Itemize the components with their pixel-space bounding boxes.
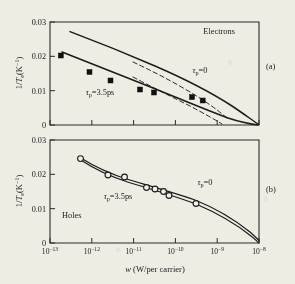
y-axis-title-panel-b: 1/Te(K−1) xyxy=(14,175,25,208)
xtick-label-4: 10−9 xyxy=(210,246,224,256)
panel-b-annotation-tau35: τp=3.5ps xyxy=(104,192,133,202)
panel-a-ytick-2: 0.01 xyxy=(32,87,46,96)
panel-b-xticks xyxy=(50,238,259,243)
xtick-label-3: 10−10 xyxy=(167,246,184,256)
xtick-label-5: 10−8 xyxy=(252,246,266,256)
y-axis-title-panel-a: 1/Te(K−1) xyxy=(14,57,25,90)
panel-b: 0.03 0.02 0.01 0 τp=0 τp=3.5ps Holes (b) xyxy=(32,136,276,248)
xtick-label-1: 10−12 xyxy=(84,246,101,256)
panel-a-dashed-lower xyxy=(133,77,222,124)
panel-b-tag: (b) xyxy=(266,185,276,194)
panel-a-dashed-upper xyxy=(133,62,228,119)
panel-a-ytick-0: 0.03 xyxy=(32,18,46,27)
panel-a-annotation-tau0: τp=0 xyxy=(192,66,207,76)
panel-a-title: Electrons xyxy=(203,27,235,36)
xtick-label-0: 10−13 xyxy=(42,246,59,256)
x-axis-tick-labels: 10−13 10−12 10−11 10−10 10−9 10−8 xyxy=(42,246,266,256)
panel-b-ytick-0: 0.03 xyxy=(32,136,46,145)
panel-a-curve-tau0 xyxy=(70,32,258,124)
panel-a-xticks xyxy=(50,120,259,125)
panel-b-ytick-1: 0.02 xyxy=(32,170,46,179)
panel-b-yticks xyxy=(50,140,55,243)
x-axis-title: w (W/per carrier) xyxy=(125,264,185,274)
panel-a-frame xyxy=(50,22,259,125)
panel-a-annotation-tau35: τp=3.5ps xyxy=(86,88,115,98)
scientific-figure: 0.03 0.02 0.01 0 Electrons τp=0 τp=3.5ps xyxy=(0,0,295,284)
panel-a-yticks xyxy=(50,22,55,125)
panel-b-annotation-tau0: τp=0 xyxy=(197,178,212,188)
panel-a-data-markers xyxy=(58,53,205,103)
panel-a-tag: (a) xyxy=(266,62,276,71)
panel-a-ytick-1: 0.02 xyxy=(32,52,46,61)
panel-b-title: Holes xyxy=(62,211,82,220)
xtick-label-2: 10−11 xyxy=(126,246,142,256)
panel-a-ytick-3: 0 xyxy=(42,121,46,130)
panel-a: 0.03 0.02 0.01 0 Electrons τp=0 τp=3.5ps xyxy=(32,18,276,130)
panel-b-ytick-2: 0.01 xyxy=(32,205,46,214)
figure-container: 0.03 0.02 0.01 0 Electrons τp=0 τp=3.5ps xyxy=(0,0,295,284)
